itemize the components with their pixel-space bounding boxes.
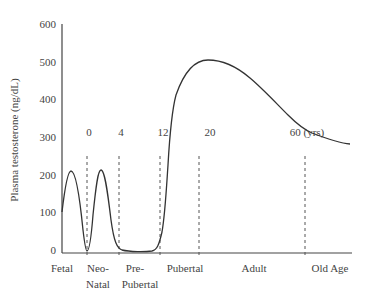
stage-neonatal-line2: Natal bbox=[86, 278, 110, 290]
stage-neonatal-line1: Neo- bbox=[87, 262, 109, 274]
y-tick-600: 600 bbox=[40, 18, 57, 30]
y-axis-title: Plasma testosterone (ng/dL) bbox=[8, 78, 21, 202]
y-tick-labels: 600 500 400 300 200 100 0 bbox=[40, 18, 57, 256]
y-tick-200: 200 bbox=[40, 169, 57, 181]
y-tick-500: 500 bbox=[40, 56, 57, 68]
stage-labels: Fetal Neo- Natal Pre- Pubertal Pubertal … bbox=[51, 262, 349, 290]
stage-prepubertal-line1: Pre- bbox=[126, 262, 145, 274]
stage-pubertal: Pubertal bbox=[167, 262, 204, 274]
y-tick-100: 100 bbox=[40, 206, 57, 218]
stage-fetal: Fetal bbox=[51, 262, 73, 274]
stage-prepubertal-line2: Pubertal bbox=[122, 278, 159, 290]
testosterone-curve bbox=[62, 60, 350, 252]
testosterone-chart: 600 500 400 300 200 100 0 Plasma testost… bbox=[0, 0, 367, 302]
y-tick-400: 400 bbox=[40, 93, 57, 105]
y-tick-300: 300 bbox=[40, 131, 57, 143]
marker-label-0: 0 bbox=[86, 126, 92, 138]
age-marker-lines bbox=[87, 156, 305, 255]
stage-oldage: Old Age bbox=[312, 262, 349, 274]
marker-label-60: 60 (yrs) bbox=[290, 126, 325, 139]
stage-adult: Adult bbox=[241, 262, 266, 274]
age-marker-labels: 0 4 12 20 60 (yrs) bbox=[86, 126, 324, 139]
marker-label-20: 20 bbox=[205, 126, 217, 138]
y-tick-0: 0 bbox=[51, 244, 57, 256]
marker-label-4: 4 bbox=[118, 126, 124, 138]
marker-label-12: 12 bbox=[158, 126, 169, 138]
